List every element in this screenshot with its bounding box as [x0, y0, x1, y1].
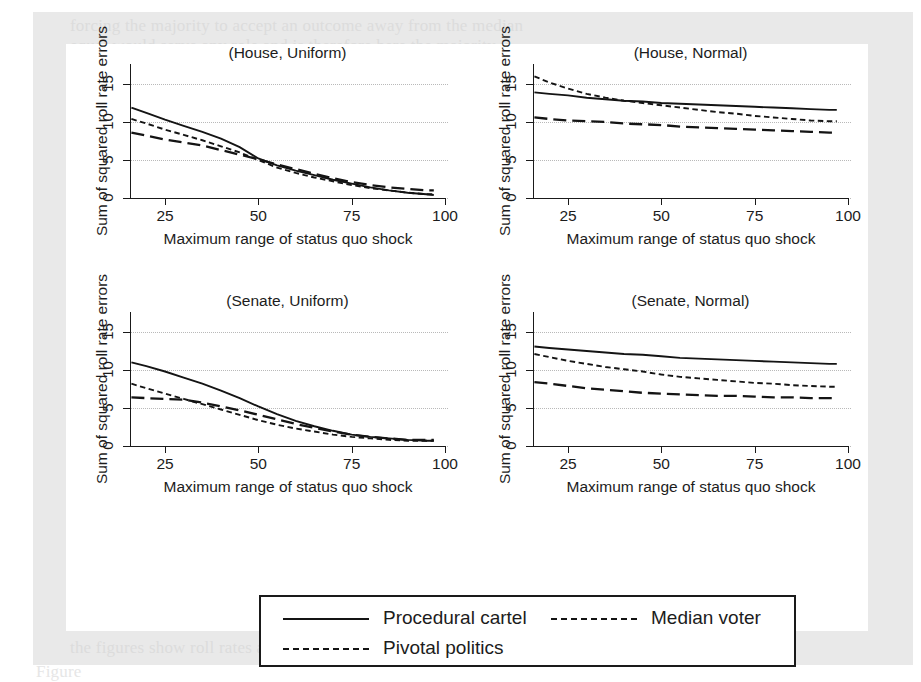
x-tick-100 — [445, 198, 446, 205]
series-line-procedural-cartel — [534, 92, 836, 109]
legend-key-long-dash — [551, 618, 637, 620]
series-line-procedural-cartel — [534, 346, 836, 363]
subplot-senate-normal: (Senate, Normal)051015255075100Maximum r… — [469, 292, 868, 517]
series-line-pivotal-politics — [534, 76, 836, 121]
legend-item-procedural-cartel: Procedural cartel — [283, 605, 523, 631]
legend-label: Procedural cartel — [383, 605, 527, 631]
y-tick-10 — [526, 122, 533, 123]
legend-key-short-dash — [283, 648, 369, 650]
series-line-median-voter — [131, 397, 433, 440]
y-axis-title: Sum of squared roll rate errors — [496, 274, 514, 484]
legend-key-solid — [283, 618, 369, 620]
y-axis-title: Sum of squared roll rate errors — [93, 274, 111, 484]
page-tint-left — [33, 12, 66, 650]
x-tick-100 — [848, 446, 849, 453]
y-tick-0 — [123, 446, 130, 447]
subplot-title: (Senate, Uniform) — [130, 292, 445, 310]
series-layer — [130, 312, 445, 490]
y-tick-5 — [526, 408, 533, 409]
plot-area: 051015255075100Maximum range of status q… — [533, 64, 848, 242]
y-tick-15 — [123, 332, 130, 333]
y-tick-0 — [526, 198, 533, 199]
subplot-title: (House, Normal) — [533, 44, 848, 62]
series-layer — [130, 64, 445, 242]
series-line-procedural-cartel — [131, 108, 433, 195]
subplot-title: (Senate, Normal) — [533, 292, 848, 310]
x-tick-100 — [445, 446, 446, 453]
y-axis-title: Sum of squared roll rate errors — [496, 26, 514, 236]
subplot-senate-uniform: (Senate, Uniform)051015255075100Maximum … — [66, 292, 465, 517]
legend-item-pivotal-politics: Pivotal politics — [283, 635, 523, 661]
series-line-procedural-cartel — [131, 362, 433, 440]
y-tick-15 — [123, 84, 130, 85]
plot-area: 051015255075100Maximum range of status q… — [130, 64, 445, 242]
y-tick-5 — [526, 160, 533, 161]
legend-label: Median voter — [651, 605, 761, 631]
y-tick-0 — [526, 446, 533, 447]
series-line-median-voter — [131, 133, 433, 191]
y-axis-title: Sum of squared roll rate errors — [93, 26, 111, 236]
y-axis-title-wrap: Sum of squared roll rate errors — [495, 312, 515, 446]
y-tick-5 — [123, 160, 130, 161]
series-line-pivotal-politics — [131, 119, 433, 194]
y-tick-10 — [123, 122, 130, 123]
series-layer — [533, 312, 848, 490]
page-tint-right — [868, 12, 913, 650]
series-line-median-voter — [534, 382, 836, 398]
y-tick-10 — [123, 370, 130, 371]
y-tick-10 — [526, 370, 533, 371]
subplot-title: (House, Uniform) — [130, 44, 445, 62]
y-axis-title-wrap: Sum of squared roll rate errors — [495, 64, 515, 198]
plot-area: 051015255075100Maximum range of status q… — [533, 312, 848, 490]
subplot-house-uniform: (House, Uniform)051015255075100Maximum r… — [66, 44, 465, 269]
x-tick-100 — [848, 198, 849, 205]
y-tick-5 — [123, 408, 130, 409]
y-axis-title-wrap: Sum of squared roll rate errors — [92, 64, 112, 198]
figure-panel: (House, Uniform)051015255075100Maximum r… — [66, 44, 868, 631]
bleed-through-line: forcing the majority to accept an outcom… — [70, 16, 523, 36]
plot-area: 051015255075100Maximum range of status q… — [130, 312, 445, 490]
y-tick-0 — [123, 198, 130, 199]
legend-box: Procedural cartelMedian voterPivotal pol… — [259, 595, 796, 667]
series-layer — [533, 64, 848, 242]
subplot-house-normal: (House, Normal)051015255075100Maximum ra… — [469, 44, 868, 269]
bleed-through-line: Figure — [36, 662, 82, 682]
y-tick-15 — [526, 84, 533, 85]
series-line-pivotal-politics — [131, 384, 433, 441]
y-axis-title-wrap: Sum of squared roll rate errors — [92, 312, 112, 446]
legend-label: Pivotal politics — [383, 635, 503, 661]
y-tick-15 — [526, 332, 533, 333]
legend-item-median-voter: Median voter — [551, 605, 791, 631]
